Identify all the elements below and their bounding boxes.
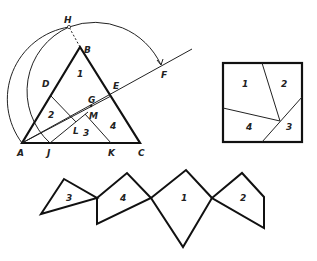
cut-dl — [51, 96, 76, 122]
square-region-1: 1 — [242, 79, 248, 89]
point-g-marker — [90, 105, 93, 108]
square-cut-1 — [262, 63, 280, 121]
label-k: K — [108, 148, 116, 158]
construction-figure — [7, 22, 192, 143]
chain-piece-2 — [212, 173, 264, 228]
region-1: 1 — [77, 69, 83, 79]
hinged-chain: 3 4 1 2 — [41, 170, 264, 247]
arc-hf — [7, 22, 161, 143]
label-c: C — [138, 148, 145, 158]
square-cut-2 — [223, 108, 280, 121]
label-g: G — [88, 95, 95, 105]
region-4: 4 — [109, 121, 116, 131]
chain-label-1: 1 — [181, 193, 187, 203]
region-3: 3 — [83, 128, 89, 138]
label-b: B — [84, 45, 91, 55]
point-labels: H B D E F G M L A J K C — [16, 15, 168, 158]
square-figure: 1 2 4 3 — [223, 63, 302, 142]
region-2: 2 — [48, 110, 54, 120]
label-e: E — [113, 81, 120, 91]
label-l: L — [73, 126, 79, 136]
square-region-2: 2 — [281, 79, 287, 89]
chain-label-2: 2 — [240, 193, 246, 203]
chain-piece-1 — [151, 170, 212, 247]
label-h: H — [64, 15, 72, 25]
square-cut-3 — [262, 97, 302, 142]
line-aef — [22, 49, 192, 143]
square-region-3: 3 — [286, 122, 292, 132]
chain-label-4: 4 — [119, 193, 126, 203]
triangle-abc — [22, 47, 140, 143]
label-m: M — [89, 111, 98, 121]
diagram-canvas: H B D E F G M L A J K C 1 2 3 4 1 2 4 3 … — [0, 0, 317, 261]
dashed-bh — [69, 27, 80, 47]
chain-label-3: 3 — [66, 193, 72, 203]
label-d: D — [42, 79, 50, 89]
point-h-marker — [67, 25, 70, 28]
label-f: F — [161, 70, 168, 80]
label-j: J — [45, 148, 51, 158]
square-region-4: 4 — [245, 122, 252, 132]
label-a: A — [16, 148, 24, 158]
